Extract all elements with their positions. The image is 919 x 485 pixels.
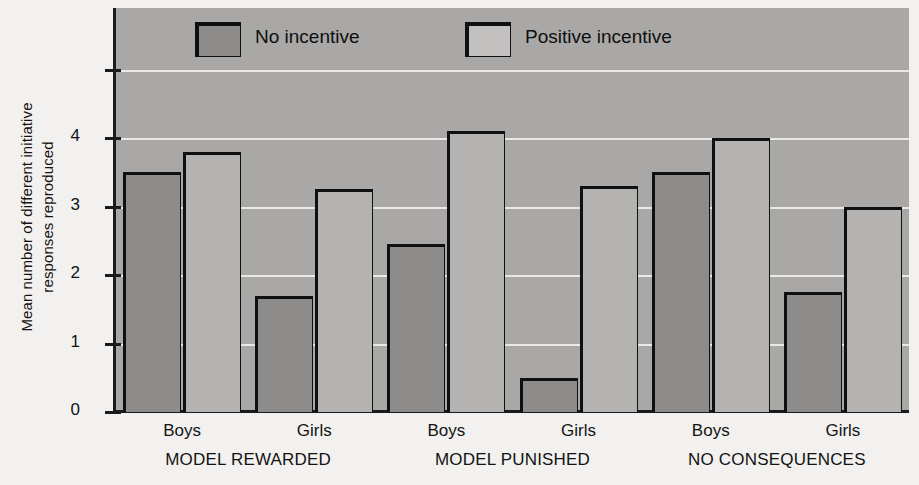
bar-girls-no-incentive-5 xyxy=(784,292,842,412)
bar-boys-no-incentive-0 xyxy=(123,172,181,412)
bar-boys-positive-incentive-2 xyxy=(447,131,505,412)
y-axis-title-line-2: responses reproduced xyxy=(37,17,58,417)
y-tick-1 xyxy=(105,343,121,346)
y-tick-label-0: 0 xyxy=(20,400,80,420)
bar-chart-figure: Mean number of different initiative resp… xyxy=(0,0,919,485)
bar-boys-positive-incentive-0 xyxy=(183,152,241,412)
bar-girls-positive-incentive-3 xyxy=(580,186,638,412)
gridline-5 xyxy=(116,70,909,72)
x-group-label-model-punished: MODEL PUNISHED xyxy=(373,450,653,470)
x-group-label-model-rewarded: MODEL REWARDED xyxy=(108,450,388,470)
x-group-label-no-consequences: NO CONSEQUENCES xyxy=(637,450,917,470)
bar-boys-positive-incentive-4 xyxy=(712,138,770,412)
x-category-label-3: Girls xyxy=(519,421,639,441)
bar-boys-no-incentive-2 xyxy=(387,244,445,412)
y-tick-5 xyxy=(105,69,121,72)
x-category-label-5: Girls xyxy=(783,421,903,441)
y-tick-2 xyxy=(105,274,121,277)
bar-girls-no-incentive-3 xyxy=(520,378,578,412)
bar-girls-positive-incentive-1 xyxy=(315,189,373,412)
y-tick-3 xyxy=(105,206,121,209)
y-tick-0 xyxy=(105,411,121,414)
y-axis-title: Mean number of different initiative resp… xyxy=(16,17,58,417)
x-category-label-4: Boys xyxy=(651,421,771,441)
bar-girls-positive-incentive-5 xyxy=(844,207,902,413)
y-tick-label-4: 4 xyxy=(20,126,80,146)
bar-girls-no-incentive-1 xyxy=(255,296,313,412)
y-tick-label-2: 2 xyxy=(20,263,80,283)
y-axis-title-line-1: Mean number of different initiative xyxy=(16,17,37,417)
legend-swatch-icon xyxy=(465,22,511,57)
legend-label: Positive incentive xyxy=(525,26,672,48)
x-category-label-0: Boys xyxy=(122,421,242,441)
x-category-label-1: Girls xyxy=(254,421,374,441)
y-tick-label-3: 3 xyxy=(20,195,80,215)
y-tick-label-1: 1 xyxy=(20,332,80,352)
y-tick-4 xyxy=(105,137,121,140)
legend-label: No incentive xyxy=(255,26,360,48)
legend-swatch-icon xyxy=(195,22,241,57)
gridline-4 xyxy=(116,138,909,140)
bar-boys-no-incentive-4 xyxy=(652,172,710,412)
x-category-label-2: Boys xyxy=(386,421,506,441)
